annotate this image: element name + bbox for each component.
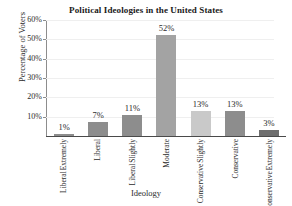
y-axis-tick (43, 97, 46, 98)
bar-series: 1%7%11%52%13%13%3% (47, 20, 286, 136)
bar-value-label: 52% (159, 24, 175, 33)
bar-value-label: 3% (263, 119, 274, 128)
bar-group[interactable]: 7% (81, 20, 115, 136)
bar-value-label: 13% (227, 100, 243, 109)
y-axis-tick-label: 20% (27, 93, 42, 101)
bar[interactable] (122, 115, 142, 136)
x-axis-tick-label-line: Liberal (94, 139, 103, 161)
bar-value-label: 7% (93, 111, 104, 120)
x-axis-tick-slot: SlightlyLiberal (116, 139, 150, 185)
x-axis-tick-label: Moderate (163, 139, 172, 168)
x-axis-tick-label: Conservative (231, 139, 240, 179)
bar-group[interactable]: 1% (47, 20, 81, 136)
x-axis-tick-label-line: Moderate (163, 139, 172, 168)
x-axis-tick-label-line: Slightly (197, 139, 206, 163)
x-axis-tick-slot: Conservative (218, 139, 252, 185)
bar[interactable] (191, 111, 211, 136)
y-axis-tick (43, 20, 46, 21)
x-axis-tick-slot: ExtremelyLiberal (47, 139, 81, 185)
x-axis-tick-slot: Liberal (81, 139, 115, 185)
bar-value-label: 13% (193, 100, 209, 109)
y-axis-tick (43, 78, 46, 79)
plot-area: 10%20%30%40%50%60% 1%7%11%52%13%13%3% (46, 20, 286, 137)
bar-group[interactable]: 11% (115, 20, 149, 136)
bar[interactable] (88, 122, 108, 136)
y-axis-tick-label: 40% (27, 55, 42, 63)
x-axis-tick-labels: ExtremelyLiberalLiberalSlightlyLiberalMo… (47, 139, 287, 185)
y-axis-tick-label: 30% (27, 74, 42, 82)
y-axis-tick (43, 39, 46, 40)
x-axis-tick-label-line: Extremely (266, 139, 275, 170)
x-axis-tick-label-line: Slightly (128, 139, 137, 163)
x-axis-tick-slot: Moderate (150, 139, 184, 185)
bar-group[interactable]: 52% (149, 20, 183, 136)
x-axis-tick-label: ExtremelyLiberal (60, 139, 69, 193)
x-axis-tick-slot: ExtremelyConservative (253, 139, 287, 185)
bar-value-label: 1% (58, 123, 69, 132)
bar[interactable] (156, 35, 176, 136)
x-axis-tick-slot: SlightlyConservative (184, 139, 218, 185)
bar-group[interactable]: 13% (184, 20, 218, 136)
y-axis-tick-label: 50% (27, 35, 42, 43)
x-axis-tick-label-line: Conservative (231, 139, 240, 179)
y-axis-tick-label: 60% (27, 16, 42, 24)
x-axis-tick-label-line: Extremely (60, 139, 69, 170)
x-axis-title: Ideology (0, 188, 292, 198)
bar-value-label: 11% (125, 104, 140, 113)
x-axis-tick-label-line: Liberal (128, 164, 137, 186)
x-axis-tick-label: Liberal (94, 139, 103, 161)
y-axis-tick (43, 117, 46, 118)
y-axis-tick (43, 59, 46, 60)
x-axis-line (46, 136, 286, 137)
bar-group[interactable]: 13% (218, 20, 252, 136)
y-axis-tick-label: 10% (27, 113, 42, 121)
x-axis-tick-label: SlightlyLiberal (128, 139, 137, 185)
bar-chart-figure: Political Ideologies in the United State… (0, 0, 292, 206)
bar-group[interactable]: 3% (252, 20, 286, 136)
bar[interactable] (225, 111, 245, 136)
y-axis-title: Percentage of Voters (17, 0, 27, 102)
chart-title: Political Ideologies in the United State… (0, 5, 292, 15)
